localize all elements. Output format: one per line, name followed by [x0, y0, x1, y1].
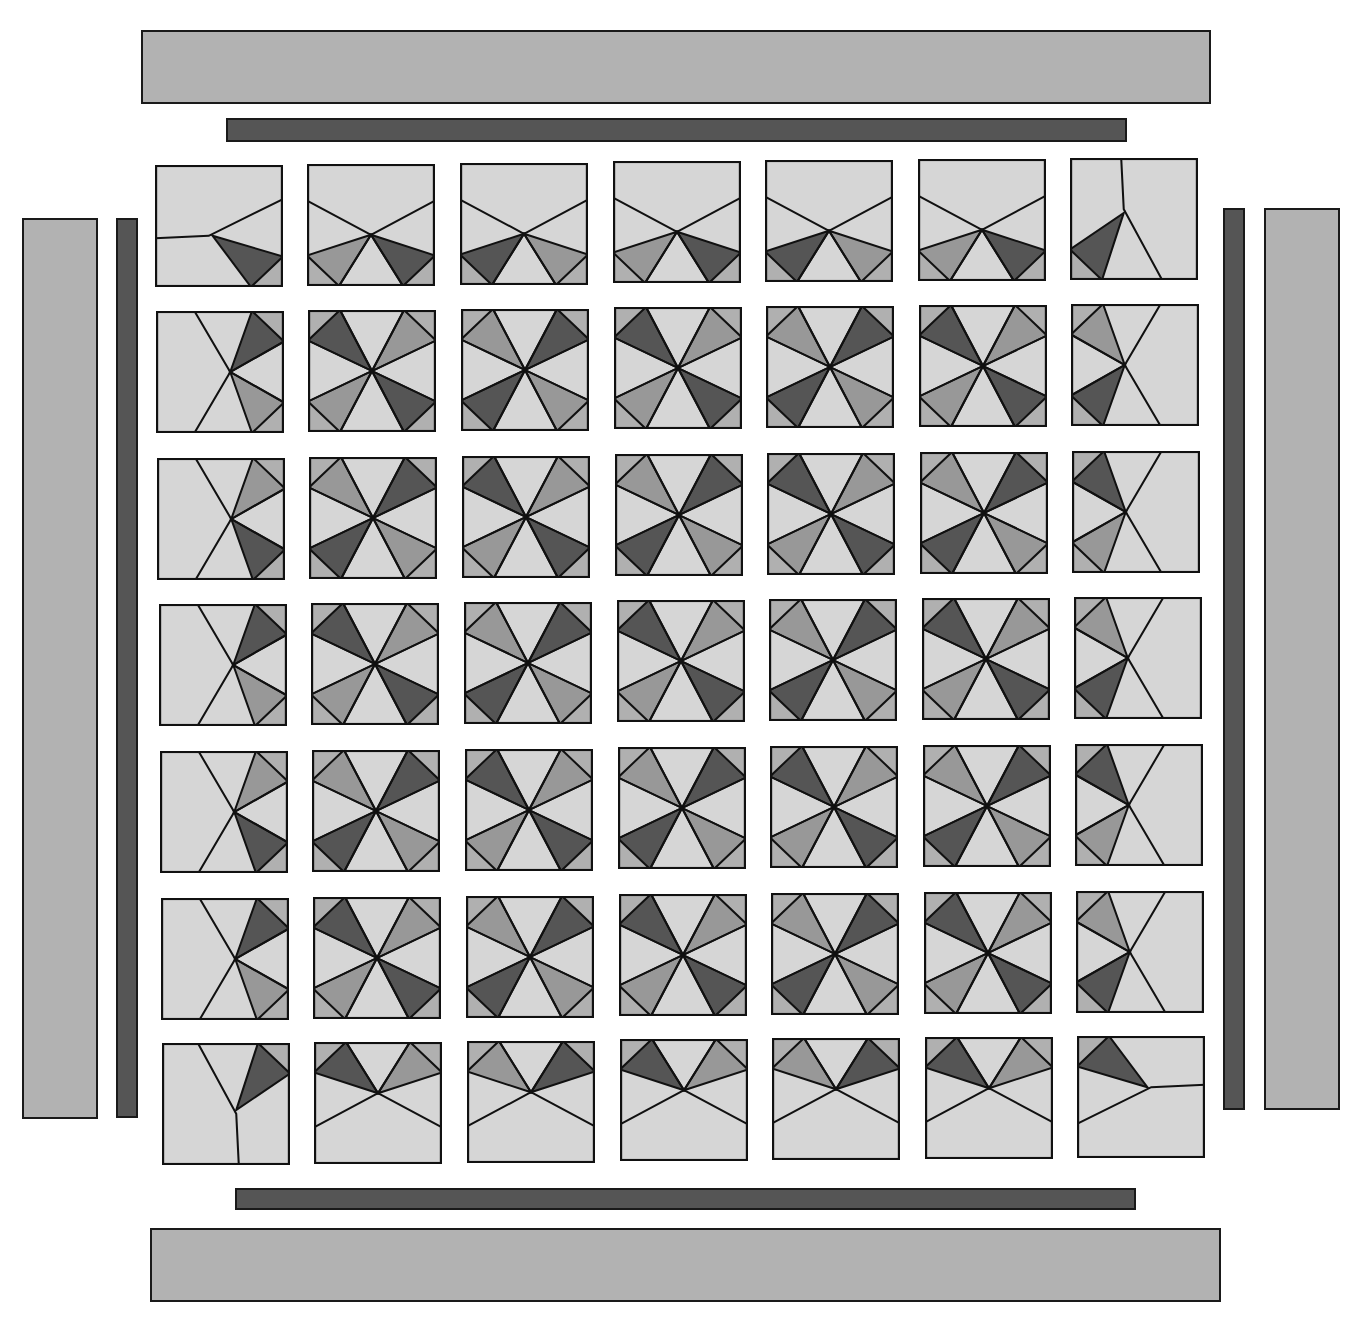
right-edge-block-r3-c7 [1072, 451, 1200, 573]
star-block-r2-c2 [308, 310, 436, 432]
border-strip-left-narrow [116, 218, 138, 1118]
border-strip-bottom-narrow [235, 1188, 1136, 1210]
right-edge-block-r5-c7 [1075, 744, 1203, 866]
top-edge-block-r1-c2 [307, 164, 435, 286]
star-block-r4-c6 [922, 598, 1050, 720]
star-block-r5-c2 [312, 750, 440, 872]
star-block-r2-c4 [614, 307, 742, 429]
star-block-r3-c3 [462, 456, 590, 578]
star-block-r2-c3 [461, 309, 589, 431]
top-edge-block-r1-c4 [613, 161, 741, 283]
star-block-r5-c3 [465, 749, 593, 871]
left-edge-block-r3-c1 [157, 458, 285, 580]
star-block-r6-c5 [771, 893, 899, 1015]
left-edge-block-r4-c1 [159, 604, 287, 726]
bottom-edge-block-r7-c5 [772, 1038, 900, 1160]
bottom-edge-block-r7-c6 [925, 1037, 1053, 1159]
left-edge-block-r5-c1 [160, 751, 288, 873]
border-strip-bottom-wide [150, 1228, 1221, 1302]
border-strip-top-narrow [226, 118, 1127, 142]
bottom-edge-block-r7-c4 [620, 1039, 748, 1161]
border-strip-right-wide [1264, 208, 1340, 1110]
right-edge-block-r4-c7 [1074, 597, 1202, 719]
star-block-r2-c5 [766, 306, 894, 428]
bottom-edge-block-r7-c2 [314, 1042, 442, 1164]
star-block-r5-c5 [770, 746, 898, 868]
star-block-r6-c6 [924, 892, 1052, 1014]
left-edge-block-r2-c1 [156, 311, 284, 433]
border-strip-left-wide [22, 218, 98, 1119]
border-strip-top-wide [141, 30, 1211, 104]
star-block-r6-c4 [619, 894, 747, 1016]
corner-block-r7-c1 [162, 1043, 290, 1165]
star-block-r6-c3 [466, 896, 594, 1018]
top-edge-block-r1-c3 [460, 163, 588, 285]
star-block-r4-c4 [617, 600, 745, 722]
star-block-r6-c2 [313, 897, 441, 1019]
star-block-r3-c5 [767, 453, 895, 575]
star-block-r5-c6 [923, 745, 1051, 867]
right-edge-block-r6-c7 [1076, 891, 1204, 1013]
star-block-r3-c6 [920, 452, 1048, 574]
bottom-edge-block-r7-c3 [467, 1041, 595, 1163]
star-block-r4-c3 [464, 602, 592, 724]
star-block-r3-c2 [309, 457, 437, 579]
top-edge-block-r1-c6 [918, 159, 1046, 281]
border-strip-right-narrow [1223, 208, 1245, 1110]
corner-block-r1-c7 [1070, 158, 1198, 280]
corner-block-r1-c1 [155, 165, 283, 287]
star-block-r5-c4 [618, 747, 746, 869]
star-block-r3-c4 [615, 454, 743, 576]
right-edge-block-r2-c7 [1071, 304, 1199, 426]
corner-block-r7-c7 [1077, 1036, 1205, 1158]
star-block-r2-c6 [919, 305, 1047, 427]
star-block-r4-c5 [769, 599, 897, 721]
star-block-r4-c2 [311, 603, 439, 725]
left-edge-block-r6-c1 [161, 898, 289, 1020]
top-edge-block-r1-c5 [765, 160, 893, 282]
